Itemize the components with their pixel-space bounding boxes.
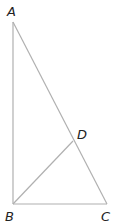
label-c: C — [101, 209, 111, 224]
segment-bd — [13, 141, 73, 204]
label-b: B — [5, 209, 14, 224]
label-a: A — [6, 4, 16, 19]
label-d: D — [77, 127, 87, 142]
segment-ac — [13, 22, 107, 204]
triangle-diagram: A B C D — [0, 0, 120, 224]
